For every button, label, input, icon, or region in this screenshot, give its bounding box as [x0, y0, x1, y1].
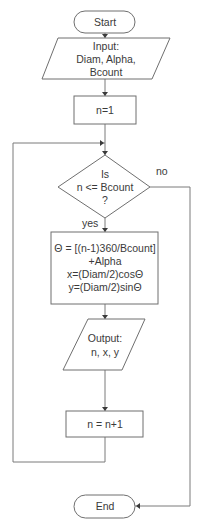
yes-label: yes	[82, 217, 98, 229]
arrow-down-icon	[102, 228, 108, 232]
increment-process: n = n+1	[66, 411, 143, 437]
compute-process: Θ = [(n-1)360/Bcount] +Alpha x=(Diam/2)c…	[51, 232, 158, 304]
start-label: Start	[94, 16, 116, 28]
end-terminator: End	[74, 495, 135, 518]
no-label: no	[156, 165, 168, 177]
input-line-1: Input:	[93, 40, 119, 52]
increment-label: n = n+1	[87, 418, 123, 430]
decision-diamond: Is n <= Bcount ?	[58, 155, 150, 218]
output-line-2: n, x, y	[91, 346, 120, 358]
arrow-left-icon	[136, 503, 140, 509]
flowchart: Start Input: Diam, Alpha, Bcount n=1 Is …	[0, 0, 201, 523]
decision-line-3: ?	[102, 194, 108, 206]
input-parallelogram: Input: Diam, Alpha, Bcount	[42, 38, 170, 79]
process-line-2: +Alpha	[89, 255, 122, 267]
process-line-4: y=(Diam/2)sinΘ	[68, 281, 141, 293]
process-line-3: x=(Diam/2)cosΘ	[67, 268, 143, 280]
arrow-down-icon	[102, 92, 108, 96]
arrow-down-icon	[102, 34, 108, 38]
arrow-down-icon	[102, 407, 108, 411]
init-process: n=1	[74, 96, 136, 124]
output-parallelogram: Output: n, x, y	[63, 319, 145, 370]
arrow-down-icon	[102, 315, 108, 319]
decision-line-2: n <= Bcount	[77, 181, 134, 193]
init-label: n=1	[96, 104, 114, 116]
arrow-right-icon	[100, 140, 104, 146]
decision-line-1: Is	[101, 168, 109, 180]
output-line-1: Output:	[88, 332, 122, 344]
end-label: End	[96, 500, 115, 512]
input-line-3: Bcount	[90, 66, 123, 78]
start-terminator: Start	[74, 11, 135, 33]
input-line-2: Diam, Alpha,	[76, 53, 136, 65]
process-line-1: Θ = [(n-1)360/Bcount]	[54, 242, 155, 254]
